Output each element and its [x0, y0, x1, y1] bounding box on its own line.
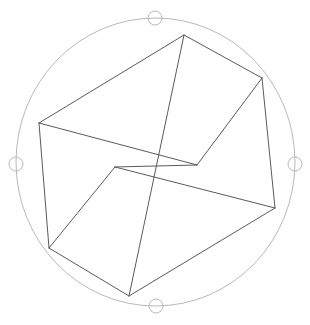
edge-bottom-rear-left[interactable]: [49, 167, 115, 248]
edge-bottom-right[interactable]: [129, 208, 275, 296]
edge-top-left-front[interactable]: [39, 123, 197, 165]
rotation-gizmo[interactable]: [9, 11, 302, 313]
edge-vertical-left[interactable]: [39, 123, 49, 248]
wireframe-cuboid[interactable]: [39, 35, 275, 296]
gizmo-circle[interactable]: [16, 18, 295, 306]
edge-bottom-rear-right[interactable]: [115, 167, 275, 208]
scene-canvas[interactable]: [0, 0, 310, 325]
edge-vertical-right[interactable]: [262, 78, 275, 208]
edge-top-right-front[interactable]: [197, 78, 262, 165]
3d-viewport[interactable]: [0, 0, 310, 325]
edge-top-left-rear[interactable]: [39, 35, 184, 123]
